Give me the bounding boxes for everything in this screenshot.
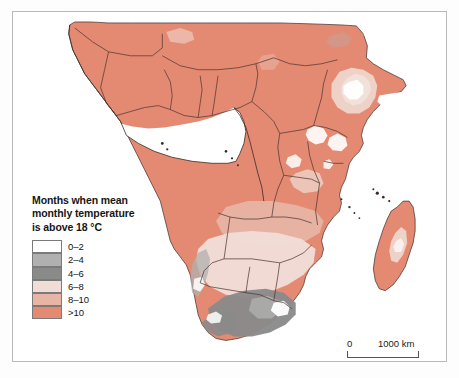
scalebar-labels: 0 1000 km: [347, 338, 439, 350]
legend-row: 4–6: [32, 267, 192, 280]
legend-swatch-above-10: [32, 306, 62, 319]
legend-row: 6–8: [32, 280, 192, 293]
legend-row: >10: [32, 306, 192, 319]
legend-label-8-10: 8–10: [68, 293, 89, 306]
legend-label-4-6: 4–6: [68, 267, 84, 280]
legend-label-2-4: 2–4: [68, 253, 84, 266]
map-figure: Months when mean monthly temperature is …: [0, 0, 459, 378]
legend-swatch-6-8: [32, 280, 62, 293]
legend-swatch-0-2: [32, 240, 62, 253]
map-legend: Months when mean monthly temperature is …: [32, 194, 192, 319]
legend-title: Months when mean monthly temperature is …: [32, 194, 192, 234]
legend-row: 0–2: [32, 240, 192, 253]
legend-swatch-8-10: [32, 293, 62, 306]
legend-swatch-2-4: [32, 253, 62, 266]
scalebar-end-label: 1000 km: [378, 338, 414, 349]
scalebar-start-label: 0: [347, 338, 352, 349]
map-frame: Months when mean monthly temperature is …: [12, 11, 447, 362]
legend-swatch-4-6: [32, 267, 62, 280]
legend-label-above-10: >10: [68, 306, 84, 319]
map-scalebar: 0 1000 km: [347, 338, 439, 358]
legend-label-0-2: 0–2: [68, 240, 84, 253]
legend-label-6-8: 6–8: [68, 280, 84, 293]
scalebar-bar: [347, 351, 419, 358]
legend-row: 2–4: [32, 253, 192, 266]
legend-row: 8–10: [32, 293, 192, 306]
